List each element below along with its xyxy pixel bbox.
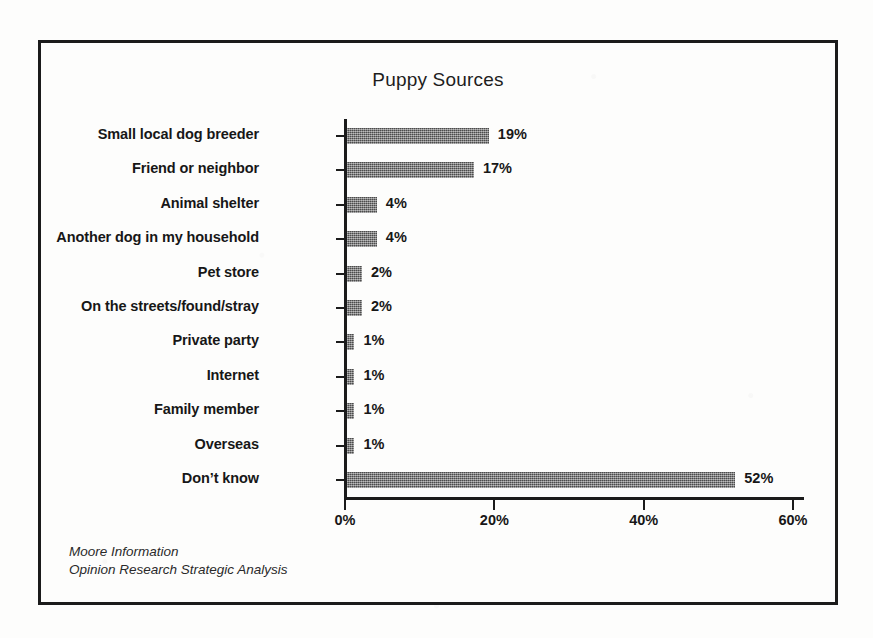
bar: [347, 403, 354, 419]
bar: [347, 162, 474, 178]
category-label: Small local dog breeder: [98, 126, 259, 142]
y-axis-tick: [336, 307, 346, 309]
category-label: Friend or neighbor: [132, 160, 259, 176]
x-axis-tick-label: 20%: [480, 512, 509, 528]
bar-value-label: 52%: [744, 470, 773, 486]
bar: [347, 334, 354, 350]
bar-value-label: 4%: [386, 229, 407, 245]
bar-row: Animal shelter4%: [41, 188, 835, 222]
y-axis-tick: [336, 341, 346, 343]
x-axis-tick: [792, 500, 794, 510]
category-label: Don’t know: [182, 470, 259, 486]
bar-value-label: 1%: [363, 436, 384, 452]
x-axis-tick: [493, 500, 495, 510]
bar-value-label: 2%: [371, 298, 392, 314]
bar: [347, 231, 377, 247]
bar-row: Internet1%: [41, 360, 835, 394]
attribution-block: Moore Information Opinion Research Strat…: [69, 543, 288, 579]
bar-row: Family member1%: [41, 394, 835, 428]
x-axis-tick-label: 60%: [778, 512, 807, 528]
y-axis-tick: [336, 376, 346, 378]
x-axis-tick-label: 0%: [335, 512, 356, 528]
bar-row: Small local dog breeder19%: [41, 119, 835, 153]
category-label: Overseas: [194, 436, 259, 452]
bar: [347, 438, 354, 454]
bar-value-label: 1%: [363, 332, 384, 348]
bar-value-label: 19%: [498, 126, 527, 142]
category-label: Animal shelter: [160, 195, 259, 211]
category-label: Internet: [207, 367, 259, 383]
bar-chart-plot-area: Small local dog breeder19%Friend or neig…: [41, 43, 835, 602]
bar-row: On the streets/found/stray2%: [41, 291, 835, 325]
category-label: Pet store: [198, 264, 259, 280]
y-axis-tick: [336, 135, 346, 137]
bar: [347, 266, 362, 282]
bar: [347, 197, 377, 213]
x-axis-tick-label: 40%: [629, 512, 658, 528]
bar-value-label: 1%: [363, 401, 384, 417]
y-axis-tick: [336, 204, 346, 206]
bar-row: Another dog in my household4%: [41, 222, 835, 256]
x-axis-line: [344, 497, 804, 500]
bar-value-label: 2%: [371, 264, 392, 280]
y-axis-tick: [336, 445, 346, 447]
bar-row: Overseas1%: [41, 429, 835, 463]
bar: [347, 472, 735, 488]
bar-value-label: 1%: [363, 367, 384, 383]
bar: [347, 128, 489, 144]
bar-row: Friend or neighbor17%: [41, 153, 835, 187]
bar-row: Private party1%: [41, 325, 835, 359]
bar-value-label: 4%: [386, 195, 407, 211]
y-axis-tick: [336, 238, 346, 240]
y-axis-tick: [336, 169, 346, 171]
category-label: Family member: [154, 401, 259, 417]
bar-row: Pet store2%: [41, 257, 835, 291]
attribution-line-1: Moore Information: [69, 543, 288, 561]
y-axis-tick: [336, 479, 346, 481]
attribution-line-2: Opinion Research Strategic Analysis: [69, 561, 288, 579]
scanned-page-background: Puppy Sources Small local dog breeder19%…: [0, 0, 873, 638]
bar: [347, 300, 362, 316]
category-label: On the streets/found/stray: [81, 298, 259, 314]
y-axis-tick: [336, 410, 346, 412]
x-axis-tick: [344, 500, 346, 510]
bar-value-label: 17%: [483, 160, 512, 176]
category-label: Another dog in my household: [56, 229, 259, 245]
y-axis-tick: [336, 273, 346, 275]
category-label: Private party: [172, 332, 259, 348]
bar: [347, 369, 354, 385]
x-axis-tick: [643, 500, 645, 510]
bar-row: Don’t know52%: [41, 463, 835, 497]
chart-frame: Puppy Sources Small local dog breeder19%…: [38, 40, 838, 605]
